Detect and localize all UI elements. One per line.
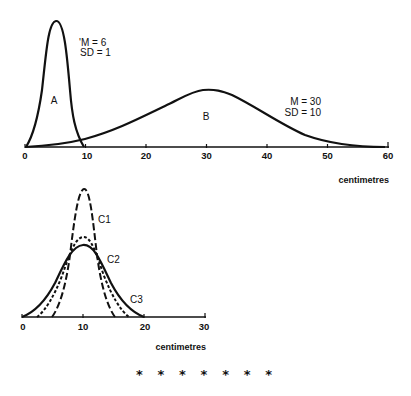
top-tick-60: 60	[383, 150, 394, 161]
curve-a	[26, 21, 84, 147]
separator-star: *	[201, 367, 208, 382]
curve-b-mean: M = 30	[290, 96, 321, 107]
bottom-tick-0: 0	[20, 321, 25, 332]
separator-star: *	[136, 367, 143, 382]
bottom-x-label: centimetres	[155, 342, 206, 352]
bottom-tick-30: 30	[199, 321, 210, 332]
bottom-tick-10: 10	[78, 321, 89, 332]
top-tick-50: 50	[322, 150, 333, 161]
curve-c2	[37, 237, 129, 317]
top-tick-20: 20	[141, 150, 152, 161]
top-chart: 0 10 20 30 40 50 60 centimetres A B 'M =…	[22, 21, 393, 185]
bottom-tick-20: 20	[140, 321, 151, 332]
curve-c1-label: C1	[98, 214, 111, 225]
top-x-label: centimetres	[338, 175, 389, 185]
figure-canvas: 0 10 20 30 40 50 60 centimetres A B 'M =…	[0, 0, 411, 396]
curve-a-sd: SD = 1	[80, 47, 111, 58]
separator-star: *	[265, 367, 272, 382]
section-separator: * * * * * * *	[136, 367, 272, 382]
separator-star: *	[244, 367, 251, 382]
curve-c2-label: C2	[107, 254, 120, 265]
separator-star: *	[179, 367, 186, 382]
curve-b-label: B	[203, 111, 210, 122]
curve-c3	[22, 245, 144, 317]
curve-a-label: A	[51, 95, 58, 106]
top-tick-10: 10	[82, 150, 93, 161]
top-tick-0: 0	[22, 150, 27, 161]
top-tick-30: 30	[201, 150, 212, 161]
separator-star: *	[222, 367, 229, 382]
top-tick-40: 40	[262, 150, 273, 161]
curve-b-sd: SD = 10	[285, 107, 322, 118]
separator-star: *	[158, 367, 165, 382]
bottom-chart: 0 10 20 30 centimetres C1 C2 C3	[20, 189, 209, 352]
curve-c3-label: C3	[130, 294, 143, 305]
curve-c1	[52, 189, 115, 317]
